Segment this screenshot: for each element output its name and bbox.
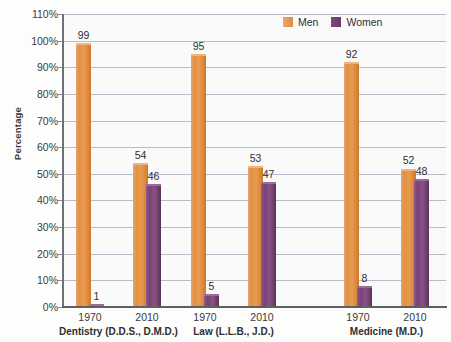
bar-top-highlight [357, 286, 372, 288]
x-axis-tick-label: 2010 [236, 311, 288, 323]
y-axis-line [62, 14, 64, 307]
bar-top-highlight [146, 184, 161, 186]
y-axis-tick-label: 40% [0, 194, 58, 206]
gridline [62, 67, 446, 68]
bar-value-men: 99 [69, 29, 99, 41]
x-axis-tick-label: 2010 [121, 311, 173, 323]
bar-chart: Percentage 110%100%90%80%70%60%50%40%30%… [0, 0, 451, 342]
bar-top-highlight [191, 54, 206, 56]
gridline [62, 94, 446, 95]
legend-item-women: Women [331, 16, 382, 28]
gridline [62, 41, 446, 42]
y-axis-tick-label: 80% [0, 88, 58, 100]
y-axis-tick-label: 110% [0, 8, 58, 20]
legend-label-men: Men [298, 16, 318, 28]
bar-men [191, 54, 206, 307]
bar-value-women: 5 [197, 280, 227, 292]
y-axis-tick-label: 20% [0, 248, 58, 260]
x-axis-line [62, 306, 447, 308]
bar-top-highlight [204, 294, 219, 296]
bar-value-women: 46 [139, 170, 169, 182]
bar-men [344, 62, 359, 307]
x-axis-tick-label: 1970 [64, 311, 116, 323]
y-axis-tick-labels: 110%100%90%80%70%60%50%40%30%20%10%0% [0, 0, 58, 342]
bar-women [357, 286, 372, 307]
bar-value-women: 48 [407, 165, 437, 177]
legend: Men Women [277, 12, 388, 32]
bar-top-highlight [261, 182, 276, 184]
y-axis-tick-label: 100% [0, 35, 58, 47]
bar-women [261, 182, 276, 307]
y-axis-tick-label: 90% [0, 61, 58, 73]
legend-swatch-women-icon [331, 17, 341, 27]
bar-value-men: 54 [126, 149, 156, 161]
legend-item-men: Men [283, 16, 318, 28]
bar-value-women: 1 [82, 290, 112, 302]
gridline [62, 147, 446, 148]
x-axis-tick-label: 1970 [332, 311, 384, 323]
bar-value-men: 92 [337, 48, 367, 60]
bar-top-highlight [133, 163, 148, 165]
legend-swatch-men-icon [283, 17, 293, 27]
x-axis-tick-label: 1970 [179, 311, 231, 323]
bar-top-highlight [414, 179, 429, 181]
legend-label-women: Women [346, 16, 382, 28]
y-axis-tick-label: 50% [0, 168, 58, 180]
y-axis-tick-label: 10% [0, 274, 58, 286]
bar-top-highlight [344, 62, 359, 64]
gridline [62, 121, 446, 122]
bar-value-men: 53 [241, 152, 271, 164]
bar-men [76, 43, 91, 307]
bar-women [146, 184, 161, 307]
y-axis-tick-label: 0% [0, 301, 58, 313]
bar-women [204, 294, 219, 307]
y-axis-tick-label: 30% [0, 221, 58, 233]
bar-value-women: 8 [350, 272, 380, 284]
x-axis-tick-label: 2010 [389, 311, 441, 323]
x-axis-group-label: Medicine (M.D.) [292, 326, 451, 337]
y-axis-tick-label: 70% [0, 115, 58, 127]
y-axis-tick-label: 60% [0, 141, 58, 153]
bar-value-men: 95 [184, 40, 214, 52]
bar-value-women: 47 [254, 168, 284, 180]
bar-women [414, 179, 429, 307]
bar-top-highlight [76, 43, 91, 45]
